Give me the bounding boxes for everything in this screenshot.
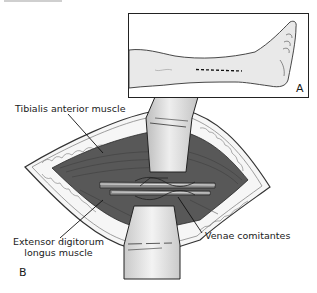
label-extensor-line2: longus muscle <box>13 247 104 258</box>
inset-panel-a <box>129 14 309 98</box>
panel-label-a: A <box>296 83 304 95</box>
label-venae-comitantes: Venae comitantes <box>205 230 290 241</box>
label-tibialis-anterior: Tibialis anterior muscle <box>15 103 126 114</box>
label-extensor-line1: Extensor digitorum <box>13 236 104 247</box>
label-extensor-digitorum-longus: Extensor digitorum longus muscle <box>13 236 104 258</box>
anatomy-figure: Tibialis anterior muscle Extensor digito… <box>0 0 317 293</box>
lower-retractor <box>124 206 180 279</box>
panel-label-b: B <box>19 267 27 279</box>
